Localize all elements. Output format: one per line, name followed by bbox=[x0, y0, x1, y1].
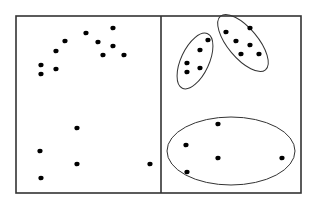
data-point bbox=[184, 61, 189, 66]
outer-frame bbox=[16, 16, 301, 193]
data-point bbox=[215, 122, 220, 127]
data-point bbox=[147, 162, 152, 167]
data-point bbox=[121, 53, 126, 58]
data-point bbox=[247, 26, 252, 31]
clustering-diagram bbox=[0, 0, 315, 207]
data-point bbox=[247, 43, 252, 48]
data-point bbox=[38, 63, 43, 68]
data-point bbox=[183, 143, 188, 148]
data-point bbox=[205, 38, 210, 43]
data-point bbox=[38, 176, 43, 181]
data-point bbox=[279, 156, 284, 161]
cluster-a-ellipse bbox=[170, 28, 221, 94]
data-point bbox=[184, 170, 189, 175]
data-point bbox=[74, 126, 79, 131]
data-point bbox=[215, 156, 220, 161]
data-point bbox=[83, 31, 88, 36]
frame bbox=[16, 16, 301, 193]
data-point bbox=[110, 26, 115, 31]
data-point bbox=[110, 44, 115, 49]
data-point bbox=[53, 67, 58, 72]
data-point bbox=[223, 30, 228, 35]
data-point bbox=[74, 162, 79, 167]
data-point bbox=[256, 52, 261, 57]
cluster-b-ellipse bbox=[209, 7, 277, 80]
data-point bbox=[37, 149, 42, 154]
data-point bbox=[53, 49, 58, 54]
data-point bbox=[184, 70, 189, 75]
unclustered-panel bbox=[37, 26, 152, 181]
data-point bbox=[62, 39, 67, 44]
data-point bbox=[95, 40, 100, 45]
data-point bbox=[100, 53, 105, 58]
data-point bbox=[197, 66, 202, 71]
data-point bbox=[233, 39, 238, 44]
data-point bbox=[238, 52, 243, 57]
data-point bbox=[197, 48, 202, 53]
data-point bbox=[38, 72, 43, 77]
cluster-c-ellipse bbox=[167, 117, 295, 185]
clustered-panel bbox=[167, 7, 295, 185]
